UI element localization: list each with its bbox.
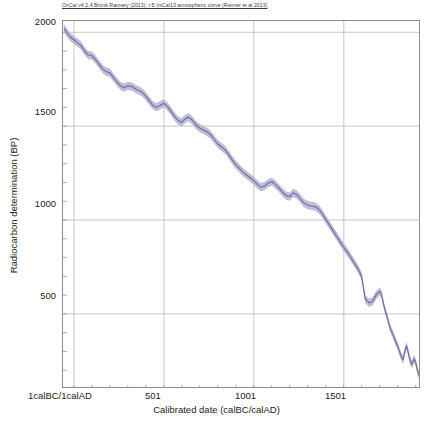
calibration-curve-svg (63, 21, 420, 388)
x-tick-label-1001: 1001 (235, 390, 256, 401)
curve-uncertainty-band (64, 24, 419, 380)
y-tick-label-500: 500 (10, 290, 56, 301)
y-tick-label-1000: 1000 (10, 198, 56, 209)
chart-credit-line: OxCal v4.2.4 Bronk Ramsey (2013); r:5 In… (62, 2, 267, 8)
x-tick-label-501: 501 (145, 390, 161, 401)
x-tick-label-1501: 1501 (325, 390, 346, 401)
radiocarbon-calibration-chart: OxCal v4.2.4 Bronk Ramsey (2013); r:5 In… (0, 0, 433, 430)
axis-ticks (63, 32, 416, 388)
x-axis-title: Calibrated date (calBC/calAD) (0, 404, 433, 415)
gridlines (63, 21, 420, 388)
y-tick-label-1500: 1500 (10, 106, 56, 117)
y-tick-label-2000: 2000 (10, 16, 56, 27)
x-tick-label-1calad: 1calBC/1calAD (28, 390, 92, 401)
plot-area (62, 20, 420, 388)
